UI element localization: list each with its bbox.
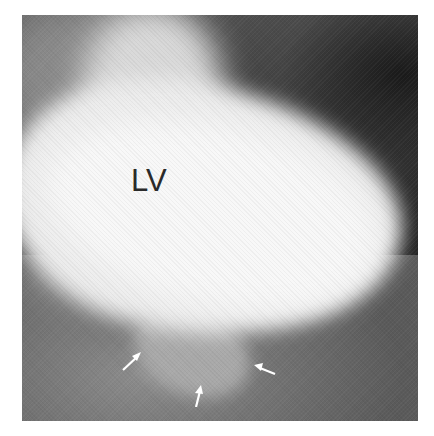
arrow-left-icon: [121, 350, 143, 372]
film-grain-overlay: [22, 15, 418, 421]
arrow-bottom-icon: [188, 385, 210, 407]
lv-label: LV: [131, 163, 167, 199]
arrow-right-icon: [254, 360, 276, 382]
angiogram-image: [22, 15, 418, 421]
